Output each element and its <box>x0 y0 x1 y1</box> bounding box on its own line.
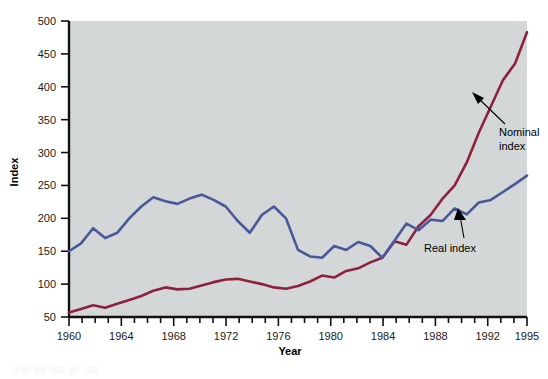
x-tick-label: 1995 <box>515 330 539 342</box>
y-tick-label: 350 <box>38 114 56 126</box>
x-axis-title: Year <box>278 345 302 357</box>
y-tick-label: 150 <box>38 245 56 257</box>
y-tick-label: 50 <box>44 311 56 323</box>
y-tick-label: 200 <box>38 212 56 224</box>
x-tick-label: 1976 <box>266 330 290 342</box>
real-index-label: Real index <box>424 242 476 254</box>
line-chart-svg: 50100150200250300350400450500 1960196419… <box>0 0 548 379</box>
x-tick-label: 1960 <box>57 330 81 342</box>
x-tick-label: 1972 <box>214 330 238 342</box>
chart-figure: 50100150200250300350400450500 1960196419… <box>0 0 548 379</box>
x-tick-label: 1968 <box>161 330 185 342</box>
x-tick-label: 1984 <box>371 330 395 342</box>
x-tick-label: 1980 <box>318 330 342 342</box>
x-tick-label: 1988 <box>423 330 447 342</box>
x-tick-label: 1992 <box>476 330 500 342</box>
y-tick-label: 250 <box>38 179 56 191</box>
nominal-index-label-line1: Nominal <box>499 126 539 138</box>
nominal-index-label-line2: index <box>499 140 526 152</box>
caption-remnant <box>12 366 98 374</box>
y-tick-label: 300 <box>38 147 56 159</box>
y-tick-label: 500 <box>38 15 56 27</box>
y-tick-label: 450 <box>38 48 56 60</box>
y-axis-title: Index <box>8 157 20 187</box>
y-tick-label: 100 <box>38 278 56 290</box>
y-tick-label: 400 <box>38 81 56 93</box>
plot-area-background <box>69 21 527 317</box>
x-tick-label: 1964 <box>109 330 133 342</box>
